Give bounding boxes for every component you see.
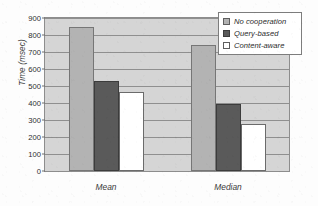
y-tick-label: 500 xyxy=(1,82,41,91)
y-tick-mark xyxy=(42,171,45,172)
bar-mean-no-cooperation xyxy=(69,27,94,172)
legend-swatch-icon xyxy=(223,18,230,25)
y-tick-mark xyxy=(42,154,45,155)
bar-chart-figure: Time (msec) 0100200300400500600700800900… xyxy=(0,0,318,206)
y-tick-label: 100 xyxy=(1,150,41,159)
x-tick-label-mean: Mean xyxy=(96,182,117,192)
y-tick-mark xyxy=(42,52,45,53)
legend-item-query-based[interactable]: Query-based xyxy=(223,28,298,39)
legend-label: Query-based xyxy=(234,29,278,38)
legend-item-no-cooperation[interactable]: No cooperation xyxy=(223,16,298,27)
y-tick-label: 700 xyxy=(1,48,41,57)
bar-median-content-aware xyxy=(241,124,266,171)
y-tick-label: 400 xyxy=(1,99,41,108)
x-tick-label-median: Median xyxy=(214,182,241,192)
chart-legend: No cooperationQuery-basedContent-aware xyxy=(218,12,302,55)
y-tick-mark xyxy=(42,18,45,19)
y-tick-mark xyxy=(42,120,45,121)
y-tick-mark xyxy=(42,103,45,104)
y-tick-label: 600 xyxy=(1,65,41,74)
y-tick-label: 800 xyxy=(1,31,41,40)
legend-label: Content-aware xyxy=(234,41,284,50)
bar-median-query-based xyxy=(216,104,241,171)
y-tick-label: 900 xyxy=(1,14,41,23)
y-tick-mark xyxy=(42,69,45,70)
legend-swatch-icon xyxy=(223,30,230,37)
bar-mean-query-based xyxy=(94,81,119,171)
legend-swatch-icon xyxy=(223,42,230,49)
y-tick-label: 0 xyxy=(1,167,41,176)
bar-median-no-cooperation xyxy=(191,45,216,171)
y-tick-label: 200 xyxy=(1,133,41,142)
y-tick-mark xyxy=(42,35,45,36)
y-tick-mark xyxy=(42,137,45,138)
legend-item-content-aware[interactable]: Content-aware xyxy=(223,40,298,51)
y-tick-label: 300 xyxy=(1,116,41,125)
bar-mean-content-aware xyxy=(119,92,144,171)
y-tick-mark xyxy=(42,86,45,87)
legend-label: No cooperation xyxy=(234,17,286,26)
